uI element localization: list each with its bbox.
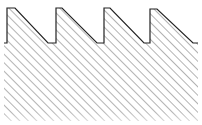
hatched-body bbox=[0, 8, 202, 125]
bottom-fade bbox=[0, 40, 202, 125]
sawtooth-section-diagram bbox=[0, 0, 202, 125]
